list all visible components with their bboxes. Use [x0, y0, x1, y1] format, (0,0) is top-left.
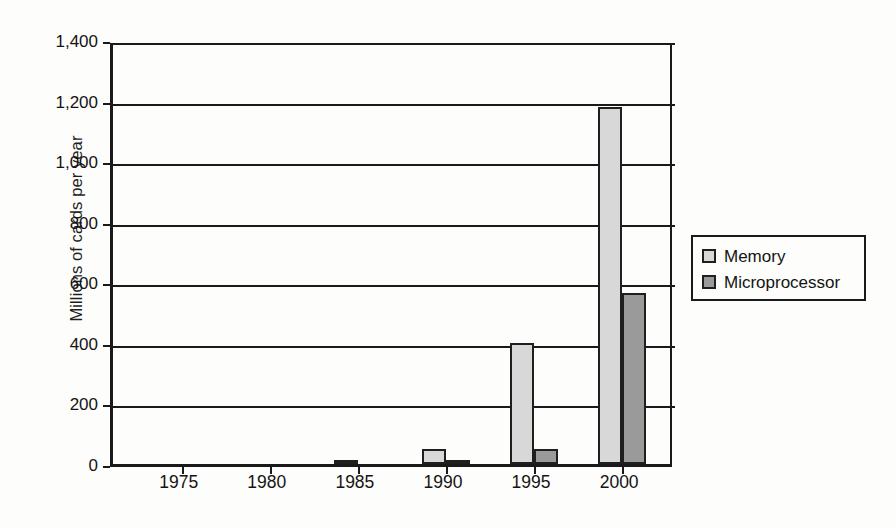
y-axis-tick-mark	[103, 103, 110, 105]
gridline	[113, 164, 675, 166]
legend-swatch-microprocessor-icon	[702, 275, 716, 289]
gridline	[113, 225, 675, 227]
x-axis-tick-label: 1990	[408, 472, 478, 493]
y-axis-tick-mark	[103, 42, 110, 44]
gridline	[113, 285, 675, 287]
legend-swatch-memory-icon	[702, 249, 716, 263]
x-axis-tick-label: 1985	[320, 472, 390, 493]
y-axis-tick-mark	[103, 405, 110, 407]
legend-label-memory: Memory	[724, 248, 785, 265]
bar-memory-1995	[510, 343, 534, 464]
chart-legend: Memory Microprocessor	[691, 235, 866, 301]
x-axis-tick-label: 1995	[496, 472, 566, 493]
y-axis-tick-mark	[103, 284, 110, 286]
y-axis-tick-label: 0	[89, 456, 98, 476]
x-axis-tick-label: 1980	[232, 472, 302, 493]
y-axis-tick-label: 1,400	[55, 32, 98, 52]
y-axis-tick-mark	[103, 345, 110, 347]
bar-microprocessor-1990	[446, 460, 470, 464]
y-axis-tick-label: 200	[70, 395, 98, 415]
gridline	[113, 346, 675, 348]
bar-memory-1985	[334, 460, 358, 464]
plot-area	[110, 43, 672, 467]
y-axis-tick-label: 600	[70, 274, 98, 294]
bar-chart-figure: Millions of cards per year 0200400600800…	[0, 0, 896, 529]
x-axis-tick-label: 1975	[144, 472, 214, 493]
plot-right-edge	[670, 43, 672, 467]
bar-memory-1990	[422, 449, 446, 464]
y-axis-tick-mark	[103, 163, 110, 165]
y-axis-tick-label: 400	[70, 335, 98, 355]
y-axis-tick-mark	[103, 224, 110, 226]
x-axis-tick-label: 2000	[584, 472, 654, 493]
gridline	[113, 104, 675, 106]
y-axis-tick-label: 1,000	[55, 153, 98, 173]
y-axis-tick-mark	[103, 466, 110, 468]
gridline	[113, 43, 675, 45]
y-axis-tick-label: 800	[70, 214, 98, 234]
bar-microprocessor-2000	[622, 293, 646, 464]
legend-item-memory: Memory	[702, 243, 864, 269]
legend-label-microprocessor: Microprocessor	[724, 274, 840, 291]
y-axis-tick-label: 1,200	[55, 93, 98, 113]
legend-item-microprocessor: Microprocessor	[702, 269, 864, 295]
bar-memory-2000	[598, 107, 622, 464]
gridline	[113, 406, 675, 408]
bar-microprocessor-1995	[534, 449, 558, 464]
